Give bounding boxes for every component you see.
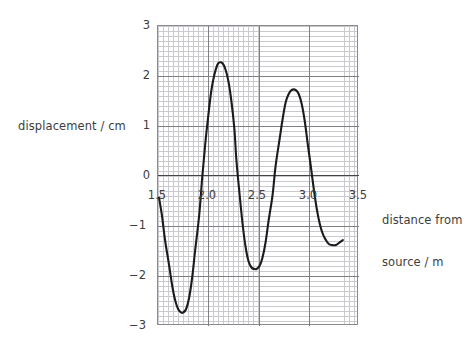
x-axis-title: distance from source / m xyxy=(382,185,462,297)
y-tick-label-0: 0 xyxy=(128,168,150,182)
y-tick-label-minus-2: −2 xyxy=(124,268,146,282)
y-tick-label-3: 3 xyxy=(128,18,150,32)
gridline-y-2 xyxy=(158,76,359,77)
x-tick-label-4: 3.5 xyxy=(341,188,375,202)
gridline-y-minus-1 xyxy=(158,226,359,227)
x-axis-title-line-1: distance from xyxy=(382,213,462,227)
y-axis-title: displacement / cm xyxy=(18,119,126,133)
x-tick-label-2: 2.5 xyxy=(240,188,274,202)
x-tick-label-3: 3.0 xyxy=(291,188,325,202)
y-tick-label-minus-1: −1 xyxy=(124,218,146,232)
y-tick-label-1: 1 xyxy=(128,118,150,132)
gridline-y-minus-2 xyxy=(158,276,359,277)
zero-axis-line xyxy=(158,175,359,177)
y-tick-label-2: 2 xyxy=(128,68,150,82)
wave-displacement-chart: displacement / cm distance from source /… xyxy=(0,0,476,351)
gridline-y-1 xyxy=(158,126,359,127)
x-tick-label-1: 2.0 xyxy=(190,188,224,202)
plot-area xyxy=(157,25,358,325)
x-tick-label-0: 1.5 xyxy=(140,188,174,202)
y-tick-label-minus-3: −3 xyxy=(124,318,146,332)
x-axis-title-line-2: source / m xyxy=(382,255,462,269)
